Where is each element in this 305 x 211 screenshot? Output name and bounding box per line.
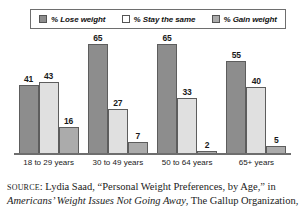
legend-swatch-stay-the-same <box>122 15 130 23</box>
bar-value-label: 27 <box>108 98 128 108</box>
source-caption: SOURCE: Lydia Saad, “Personal Weight Pre… <box>7 180 303 207</box>
legend-swatch-gain-weight <box>212 15 220 23</box>
bar-value-label: 33 <box>177 87 197 97</box>
bar-value-label: 16 <box>59 116 79 126</box>
bar <box>59 127 79 154</box>
bar-slot: 27 <box>108 36 128 154</box>
source-publisher: , The Gallup Organization, <box>186 195 298 206</box>
category-label: 18 to 29 years <box>14 158 83 167</box>
source-prefix: SOURCE <box>7 183 40 192</box>
bar-value-label: 55 <box>226 50 246 60</box>
bar-slot: 5 <box>266 36 286 154</box>
bar <box>177 98 197 154</box>
bar-group: 414316 <box>19 36 79 154</box>
bar-slot: 7 <box>128 36 148 154</box>
bar-value-label: 2 <box>197 140 217 150</box>
bar-slot: 16 <box>59 36 79 154</box>
bar <box>157 44 177 154</box>
bar-slot: 65 <box>157 36 177 154</box>
legend-swatch-lose-weight <box>39 15 47 23</box>
bar-slot: 55 <box>226 36 246 154</box>
bar-slot: 40 <box>246 36 266 154</box>
bar-slot: 65 <box>88 36 108 154</box>
legend-label-gain-weight: % Gain weight <box>224 15 277 24</box>
bar-value-label: 7 <box>128 131 148 141</box>
category-axis: 18 to 29 years30 to 49 years50 to 64 yea… <box>14 158 291 172</box>
chart-baseline <box>14 153 291 155</box>
bar-value-label: 43 <box>39 71 59 81</box>
bar-value-label: 5 <box>266 135 286 145</box>
bar-slot: 33 <box>177 36 197 154</box>
chart-legend: % Lose weight % Stay the same % Gain wei… <box>30 9 286 29</box>
bar-slot: 2 <box>197 36 217 154</box>
bar <box>226 61 246 154</box>
bar <box>88 44 108 154</box>
source-author-article: Lydia Saad, “Personal Weight Preferences… <box>45 181 275 192</box>
legend-item-gain-weight: % Gain weight <box>212 15 277 24</box>
bar-value-label: 65 <box>157 33 177 43</box>
bar-chart-plot-area: 414316652776533255405 <box>14 36 291 154</box>
bar <box>39 82 59 154</box>
bar <box>246 87 266 154</box>
bar-value-label: 65 <box>88 33 108 43</box>
bar-group: 65277 <box>88 36 148 154</box>
source-publication: Americans’ Weight Issues Not Going Away <box>7 195 186 206</box>
bar-value-label: 40 <box>246 76 266 86</box>
category-label: 65+ years <box>222 158 291 167</box>
bar-group: 55405 <box>226 36 286 154</box>
bar-slot: 41 <box>19 36 39 154</box>
legend-label-stay-the-same: % Stay the same <box>134 15 196 24</box>
bar <box>19 85 39 154</box>
bar-slot: 43 <box>39 36 59 154</box>
bar <box>108 109 128 155</box>
legend-item-lose-weight: % Lose weight <box>39 15 105 24</box>
category-label: 50 to 64 years <box>153 158 222 167</box>
bar-group: 65332 <box>157 36 217 154</box>
legend-label-lose-weight: % Lose weight <box>51 15 105 24</box>
bar-value-label: 41 <box>19 74 39 84</box>
category-label: 30 to 49 years <box>83 158 152 167</box>
legend-item-stay-the-same: % Stay the same <box>122 15 196 24</box>
